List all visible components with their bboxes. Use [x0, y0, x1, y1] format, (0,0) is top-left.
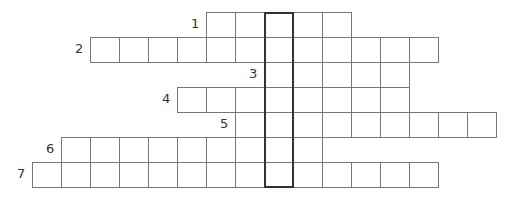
crossword-cell[interactable]: [322, 12, 352, 38]
crossword-cell[interactable]: [351, 87, 381, 113]
crossword-cell[interactable]: [322, 87, 352, 113]
crossword-cell[interactable]: [119, 37, 149, 63]
crossword-cell[interactable]: [235, 162, 265, 188]
crossword-cell[interactable]: [380, 112, 410, 138]
crossword-cell[interactable]: [235, 137, 265, 163]
crossword-cell[interactable]: [264, 112, 294, 138]
crossword-cell[interactable]: [409, 37, 439, 63]
clue-number-2: 2: [75, 42, 83, 56]
crossword-cell[interactable]: [148, 37, 178, 63]
crossword-cell[interactable]: [90, 137, 120, 163]
crossword-cell[interactable]: [61, 137, 91, 163]
crossword-cell[interactable]: [380, 62, 410, 88]
crossword-cell[interactable]: [293, 87, 323, 113]
crossword-cell[interactable]: [293, 62, 323, 88]
crossword-cell[interactable]: [322, 62, 352, 88]
clue-number-6: 6: [46, 142, 54, 156]
clue-number-4: 4: [162, 92, 170, 106]
crossword-cell[interactable]: [380, 87, 410, 113]
crossword-cell[interactable]: [438, 112, 468, 138]
crossword-cell[interactable]: [119, 162, 149, 188]
clue-number-1: 1: [191, 17, 199, 31]
crossword-cell[interactable]: [177, 37, 207, 63]
crossword-cell[interactable]: [206, 37, 236, 63]
clue-number-5: 5: [220, 117, 228, 131]
clue-number-7: 7: [17, 167, 25, 181]
crossword-cell[interactable]: [90, 37, 120, 63]
crossword-cell[interactable]: [293, 162, 323, 188]
crossword-cell[interactable]: [322, 112, 352, 138]
clue-number-3: 3: [249, 67, 257, 81]
crossword-cell[interactable]: [264, 137, 294, 163]
crossword-cell[interactable]: [293, 112, 323, 138]
crossword-cell[interactable]: [206, 162, 236, 188]
crossword-cell[interactable]: [235, 87, 265, 113]
crossword-cell[interactable]: [322, 37, 352, 63]
crossword-grid: 1234567: [0, 0, 512, 197]
crossword-cell[interactable]: [351, 112, 381, 138]
crossword-cell[interactable]: [409, 112, 439, 138]
crossword-cell[interactable]: [264, 62, 294, 88]
crossword-cell[interactable]: [380, 162, 410, 188]
crossword-cell[interactable]: [235, 12, 265, 38]
crossword-cell[interactable]: [235, 112, 265, 138]
crossword-cell[interactable]: [351, 162, 381, 188]
crossword-cell[interactable]: [206, 12, 236, 38]
crossword-cell[interactable]: [380, 37, 410, 63]
crossword-cell[interactable]: [235, 37, 265, 63]
crossword-cell[interactable]: [61, 162, 91, 188]
crossword-cell[interactable]: [264, 37, 294, 63]
crossword-cell[interactable]: [322, 162, 352, 188]
crossword-cell[interactable]: [119, 137, 149, 163]
crossword-cell[interactable]: [409, 162, 439, 188]
crossword-cell[interactable]: [148, 137, 178, 163]
crossword-cell[interactable]: [293, 37, 323, 63]
crossword-cell[interactable]: [206, 137, 236, 163]
crossword-cell[interactable]: [264, 87, 294, 113]
crossword-cell[interactable]: [264, 12, 294, 38]
crossword-cell[interactable]: [90, 162, 120, 188]
crossword-cell[interactable]: [148, 162, 178, 188]
crossword-cell[interactable]: [467, 112, 497, 138]
crossword-cell[interactable]: [177, 162, 207, 188]
crossword-cell[interactable]: [264, 162, 294, 188]
crossword-cell[interactable]: [177, 137, 207, 163]
crossword-cell[interactable]: [293, 12, 323, 38]
crossword-cell[interactable]: [351, 37, 381, 63]
crossword-cell[interactable]: [32, 162, 62, 188]
crossword-cell[interactable]: [351, 62, 381, 88]
crossword-cell[interactable]: [293, 137, 323, 163]
crossword-cell[interactable]: [177, 87, 207, 113]
crossword-cell[interactable]: [206, 87, 236, 113]
